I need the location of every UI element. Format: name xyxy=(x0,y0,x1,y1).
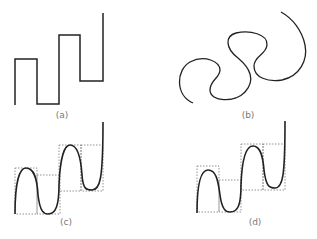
panel-b-label: (b) xyxy=(242,110,255,120)
panel-c-label: (c) xyxy=(60,217,72,227)
figure-canvas xyxy=(0,0,317,239)
panel-d-label: (d) xyxy=(249,217,262,227)
panel-a-label: (a) xyxy=(56,110,69,120)
panel-d-curve xyxy=(197,121,285,213)
panel-b-curve xyxy=(179,12,305,103)
panel-c-curve xyxy=(15,122,103,214)
panel-a-curve xyxy=(15,13,103,105)
